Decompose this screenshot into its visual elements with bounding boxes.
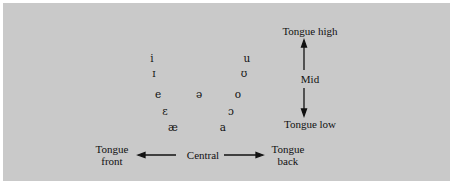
arrow-up-head-icon xyxy=(302,40,307,47)
arrow-left-head-icon xyxy=(138,153,145,158)
arrow-right-head-icon xyxy=(256,153,263,158)
arrows xyxy=(0,0,453,186)
arrow-down-head-icon xyxy=(302,109,307,116)
